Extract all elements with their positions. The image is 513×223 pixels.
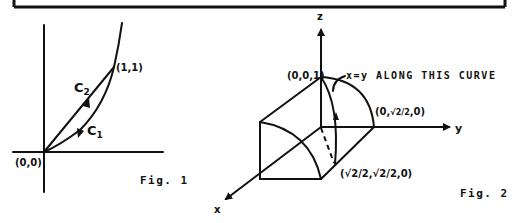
fig2-x-label: x (214, 204, 221, 215)
figure-canvas: (0,0) (1,1) C2 C1 Fig. 1 z y x x=y ALONG… (0, 0, 513, 223)
fig2: z y x x=y ALONG THIS CURVE (0,0,1) (0,√2… (214, 11, 509, 215)
fig1-c1-label: C1 (87, 123, 103, 140)
fig2-z-label: z (317, 11, 323, 22)
header-box-border (14, 0, 505, 7)
fig1-c1-arrow-icon (77, 128, 84, 138)
fig1-point-label: (1,1) (116, 62, 143, 73)
fig2-top-point-label: (0,0,1) (287, 70, 325, 81)
fig1: (0,0) (1,1) C2 C1 Fig. 1 (13, 23, 189, 192)
fig2-x-axis (226, 127, 321, 199)
fig1-origin-label: (0,0) (15, 157, 42, 168)
fig2-diag-point-label: (√2/2,√2/2,0) (340, 168, 412, 179)
fig2-y-point-label: (0,√2/2,0) (375, 106, 425, 117)
fig1-c2-label: C2 (74, 80, 90, 97)
fig2-caption: Fig. 2 (460, 187, 509, 200)
fig2-dashed-line (321, 128, 334, 163)
fig2-annotation: x=y ALONG THIS CURVE (346, 70, 496, 81)
fig2-y-label: y (455, 122, 462, 135)
fig2-back-arc (321, 77, 374, 127)
fig1-caption: Fig. 1 (140, 174, 189, 187)
fig2-top-edge (260, 77, 321, 122)
